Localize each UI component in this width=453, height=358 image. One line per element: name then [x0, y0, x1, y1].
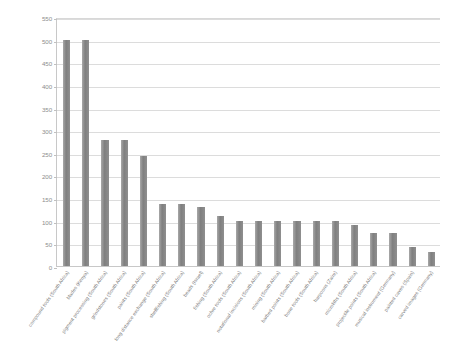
y-axis-tick-label: 500: [42, 37, 52, 44]
x-axis-category-label: compound tools (South Africa): [27, 270, 70, 328]
bar: [140, 156, 147, 266]
bar: [313, 221, 320, 266]
bar: [409, 247, 416, 266]
y-axis-tick-label: 50: [45, 241, 52, 248]
y-axis-tick-label: 550: [42, 15, 52, 22]
bar: [159, 204, 166, 266]
bar: [217, 216, 224, 266]
y-axis-tick-label: 450: [42, 60, 52, 67]
bar: [389, 233, 396, 266]
bar: [101, 140, 108, 266]
bar: [63, 40, 70, 266]
bars-layer: [57, 19, 440, 266]
bar: [197, 207, 204, 266]
x-axis-category-labels: compound tools (South Africa)blades (Ken…: [56, 268, 440, 358]
bar: [236, 221, 243, 266]
plot-wrapper: 050100150200250300350400450500550 compou…: [0, 0, 453, 358]
plot-area: [56, 18, 440, 267]
y-axis-tick-labels: 050100150200250300350400450500550: [22, 13, 52, 267]
x-axis-category-label: ochre tools (South Africa): [206, 270, 242, 319]
bar: [255, 221, 262, 266]
bar: [274, 221, 281, 266]
y-axis-tick-label: 250: [42, 150, 52, 157]
bar: [370, 233, 377, 266]
y-axis-tick-label: 150: [42, 196, 52, 203]
x-axis-category-label: shellfishing (South Africa): [148, 270, 185, 319]
bar: [178, 204, 185, 266]
bar: [293, 221, 300, 266]
x-axis-category-label: carved images (Germany): [397, 270, 434, 320]
y-axis-tick-label: 0: [49, 264, 52, 271]
y-axis-tick-label: 200: [42, 173, 52, 180]
x-axis-category-label: barbed points (South Africa): [260, 270, 300, 324]
y-axis-tick-label: 400: [42, 82, 52, 89]
bar: [428, 252, 435, 266]
y-axis-tick-label: 350: [42, 105, 52, 112]
bar: [351, 225, 358, 266]
bar-chart: 050100150200250300350400450500550 compou…: [0, 0, 453, 358]
x-axis-category-label: grindstones (South Africa): [90, 270, 127, 320]
y-axis-tick-label: 100: [42, 218, 52, 225]
bar: [82, 40, 89, 266]
y-axis-tick-label: 300: [42, 128, 52, 135]
bar: [121, 140, 128, 266]
bar: [332, 221, 339, 266]
x-axis-category-label: bone tools (South Africa): [284, 270, 320, 318]
